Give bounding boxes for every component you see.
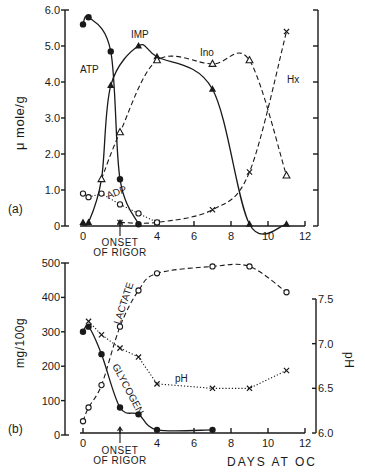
- x-tick-label: 0: [80, 230, 86, 242]
- panel-b-ylabel: mg/100g: [13, 318, 27, 368]
- data-point-filled-circle: [135, 221, 141, 227]
- ph-tick-label: 6.5: [318, 382, 333, 394]
- data-point-filled-circle: [80, 21, 86, 27]
- series-label-lactate: LACTATE: [111, 281, 135, 326]
- data-point-open-circle: [210, 264, 215, 269]
- data-point-cross: [210, 386, 215, 391]
- data-point-open-circle: [136, 288, 141, 293]
- y-tick-label: 0: [54, 220, 60, 232]
- data-point-open-triangle: [117, 129, 124, 135]
- data-point-cross: [136, 354, 141, 359]
- data-point-open-triangle: [209, 60, 216, 66]
- x-tick-label: 8: [228, 230, 234, 242]
- data-point-open-circle: [154, 220, 159, 225]
- data-point-cross: [247, 169, 252, 174]
- x-tick-label: 12: [299, 230, 311, 242]
- ph-tick-label: 7.0: [318, 338, 333, 350]
- data-point-filled-triangle: [283, 220, 290, 227]
- data-point-cross: [117, 346, 122, 351]
- series-label-ino: Ino: [200, 47, 214, 58]
- series-label-imp: IMP: [131, 29, 149, 40]
- y-tick-label: 500: [42, 257, 60, 269]
- data-point-cross: [86, 319, 91, 324]
- data-point-open-circle: [86, 195, 91, 200]
- y-tick-label: 2.0: [45, 148, 60, 160]
- onset-arrow-icon: [118, 427, 123, 443]
- data-point-cross: [99, 332, 104, 337]
- series-line-hx: [120, 32, 287, 224]
- series-line-ino: [102, 53, 287, 179]
- x-tick-label: 6: [191, 230, 197, 242]
- series-label-hx: Hx: [287, 74, 299, 85]
- y-tick-label: 6.0: [45, 4, 60, 16]
- data-point-filled-circle: [98, 351, 104, 357]
- data-point-filled-triangle: [246, 220, 253, 227]
- x-tick-label: 10: [262, 437, 274, 449]
- y-tick-label: 0: [54, 429, 60, 441]
- series-line-glycogen: [83, 326, 213, 431]
- panel-a-ylabel: μ mole/g: [12, 96, 27, 150]
- data-point-filled-circle: [154, 427, 160, 433]
- y-tick-label: 100: [42, 395, 60, 407]
- x-tick-label: 6: [191, 437, 197, 449]
- y-tick-label: 400: [42, 291, 60, 303]
- series-label-atp: ATP: [80, 64, 99, 75]
- ph-tick-label: 7.5: [318, 293, 333, 305]
- series-label-glycogen: GLYCOGEN: [110, 362, 146, 417]
- data-point-cross: [247, 386, 252, 391]
- x-tick-label: 0: [80, 437, 86, 449]
- y-tick-label: 4.0: [45, 76, 60, 88]
- x-tick-label: 8: [228, 437, 234, 449]
- data-point-open-circle: [80, 419, 85, 424]
- x-tick-label: 4: [154, 437, 160, 449]
- y-tick-label: 200: [42, 360, 60, 372]
- chart-figure: 01.02.03.04.05.06.004681012 010020030040…: [0, 0, 365, 476]
- data-point-cross: [284, 368, 289, 373]
- series-label-ph: pH: [175, 373, 188, 384]
- data-point-open-circle: [117, 202, 122, 207]
- data-point-filled-circle: [108, 48, 114, 54]
- data-point-open-circle: [86, 405, 91, 410]
- ph-tick-label: 6.0: [318, 427, 333, 439]
- data-point-open-circle: [80, 191, 85, 196]
- panel-b-y2label: pH: [342, 352, 356, 368]
- series-line-lactate: [83, 264, 287, 421]
- data-point-open-circle: [136, 211, 141, 216]
- data-point-open-circle: [99, 191, 104, 196]
- panel-a-label: (a): [8, 202, 23, 216]
- y-tick-label: 300: [42, 326, 60, 338]
- chart-panel-b: 0100200300400500046810126.06.57.07.5: [42, 257, 334, 449]
- data-point-filled-circle: [85, 14, 91, 20]
- data-point-open-circle: [99, 383, 104, 388]
- data-point-open-circle: [284, 290, 289, 295]
- y-tick-label: 1.0: [45, 184, 60, 196]
- data-point-open-triangle: [283, 172, 290, 178]
- data-point-filled-circle: [209, 427, 215, 433]
- data-point-open-circle: [154, 271, 159, 276]
- y-tick-label: 3.0: [45, 112, 60, 124]
- data-point-filled-circle: [117, 404, 123, 410]
- data-point-filled-triangle: [85, 218, 92, 225]
- data-point-filled-circle: [80, 329, 86, 335]
- onset-b-line2: OF RIGOR: [93, 455, 146, 466]
- chart-panel-a: 01.02.03.04.05.06.004681012: [45, 4, 318, 242]
- data-point-filled-circle: [117, 176, 123, 182]
- data-point-open-circle: [247, 264, 252, 269]
- x-tick-label: 12: [299, 437, 311, 449]
- x-axis-label: DAYS AT OC: [227, 455, 317, 469]
- data-point-cross: [210, 207, 215, 212]
- data-point-open-triangle: [98, 175, 105, 181]
- y-tick-label: 5.0: [45, 40, 60, 52]
- onset-a-line2: OF RIGOR: [93, 247, 146, 258]
- panel-b-label: (b): [8, 422, 23, 436]
- x-tick-label: 4: [154, 230, 160, 242]
